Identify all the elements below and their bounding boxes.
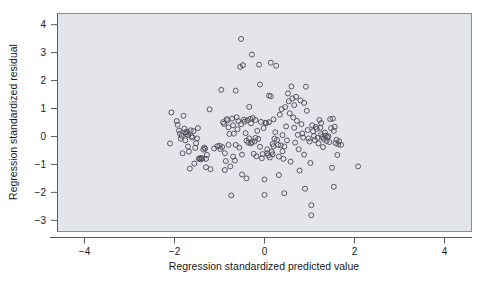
- x-axis-ticks: −4−2024: [79, 238, 448, 258]
- y-tick-label: 4: [40, 19, 46, 30]
- x-tick-label: 2: [352, 246, 358, 257]
- y-axis-title: Regression standardized residual: [7, 44, 19, 200]
- x-tick-label: 0: [262, 246, 268, 257]
- x-tick-label: −4: [79, 246, 91, 257]
- y-tick-label: 1: [40, 103, 46, 114]
- x-tick-label: −2: [169, 246, 181, 257]
- y-tick-label: −3: [35, 215, 47, 226]
- scatter-plot-figure: −3−2−101234 −4−2024 Regression standardi…: [0, 0, 485, 286]
- x-axis-title: Regression standardized predicted value: [169, 260, 359, 272]
- y-tick-label: 0: [40, 131, 46, 142]
- plot-canvas: −3−2−101234 −4−2024 Regression standardi…: [0, 0, 485, 286]
- plot-panel-background: [58, 14, 472, 232]
- y-tick-label: −1: [35, 159, 47, 170]
- x-tick-label: 4: [442, 246, 448, 257]
- y-axis-ticks: −3−2−101234: [35, 19, 58, 226]
- y-tick-label: 2: [40, 75, 46, 86]
- y-tick-label: 3: [40, 47, 46, 58]
- y-tick-label: −2: [35, 187, 47, 198]
